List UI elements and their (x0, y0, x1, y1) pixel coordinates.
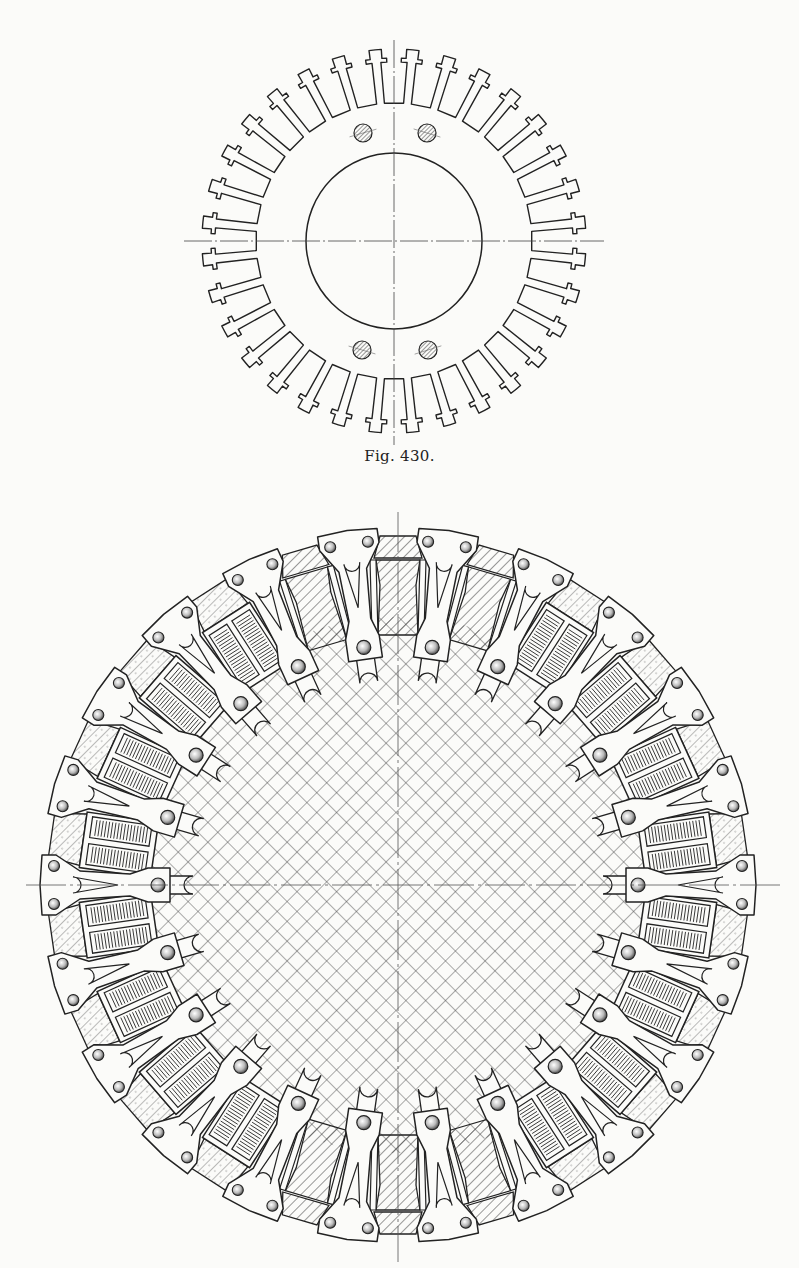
rivet-icon (692, 710, 703, 721)
rivet-icon (621, 810, 635, 824)
rivet-icon (325, 542, 336, 553)
rivet-icon (234, 697, 248, 711)
rivet-icon (325, 1217, 336, 1228)
rivet-icon (425, 1116, 439, 1130)
rivet-icon (737, 861, 748, 872)
rivet-icon (593, 748, 607, 762)
rivet-icon (161, 946, 175, 960)
rivet-icon (460, 542, 471, 553)
rivet-icon (518, 1200, 529, 1211)
rivet-icon (423, 536, 434, 547)
rivet-icon (632, 632, 643, 643)
rivet-icon (267, 559, 278, 570)
rivet-icon (603, 607, 614, 618)
rivet-icon (737, 899, 748, 910)
rivet-icon (57, 801, 68, 812)
rivet-icon (234, 1059, 248, 1073)
rivet-icon (232, 575, 243, 586)
rivet-icon (357, 1116, 371, 1130)
rivet-icon (49, 861, 60, 872)
technical-drawing (0, 0, 799, 1268)
rivet-icon (672, 1082, 683, 1093)
rivet-icon (113, 1082, 124, 1093)
rivet-icon (460, 1217, 471, 1228)
rivet-icon (291, 660, 305, 674)
rivet-icon (267, 1200, 278, 1211)
rivet-icon (621, 946, 635, 960)
figure-430-stator-lamination (184, 40, 604, 445)
rivet-icon (553, 575, 564, 586)
rivet-icon (68, 764, 79, 775)
rivet-icon (189, 1008, 203, 1022)
rivet-icon (603, 1152, 614, 1163)
rivet-icon (189, 748, 203, 762)
rivet-icon (717, 764, 728, 775)
figure-caption: Fig. 430. (0, 447, 799, 465)
rivet-icon (153, 632, 164, 643)
rivet-icon (518, 559, 529, 570)
rivet-icon (491, 1096, 505, 1110)
rivet-icon (93, 1050, 104, 1061)
rivet-icon (291, 1096, 305, 1110)
rivet-icon (57, 958, 68, 969)
rivet-icon (728, 958, 739, 969)
rivet-icon (362, 536, 373, 547)
rivet-icon (182, 1152, 193, 1163)
rivet-icon (593, 1008, 607, 1022)
rivet-icon (232, 1185, 243, 1196)
rivet-icon (553, 1185, 564, 1196)
page: Fig. 430. (0, 0, 799, 1268)
rivet-icon (717, 995, 728, 1006)
rivet-icon (161, 810, 175, 824)
rivet-icon (362, 1223, 373, 1234)
rivet-icon (113, 678, 124, 689)
rivet-icon (182, 607, 193, 618)
rivet-icon (632, 1127, 643, 1138)
rivet-icon (491, 660, 505, 674)
rivet-icon (423, 1223, 434, 1234)
rivet-icon (357, 640, 371, 654)
rivet-icon (728, 801, 739, 812)
rivet-icon (548, 1059, 562, 1073)
figure-431-rotor-assembly (26, 512, 780, 1262)
rivet-icon (425, 640, 439, 654)
rivet-icon (68, 995, 79, 1006)
rivet-icon (153, 1127, 164, 1138)
rivet-icon (692, 1050, 703, 1061)
rivet-icon (672, 678, 683, 689)
rivet-icon (49, 899, 60, 910)
rivet-icon (93, 710, 104, 721)
rivet-icon (548, 697, 562, 711)
